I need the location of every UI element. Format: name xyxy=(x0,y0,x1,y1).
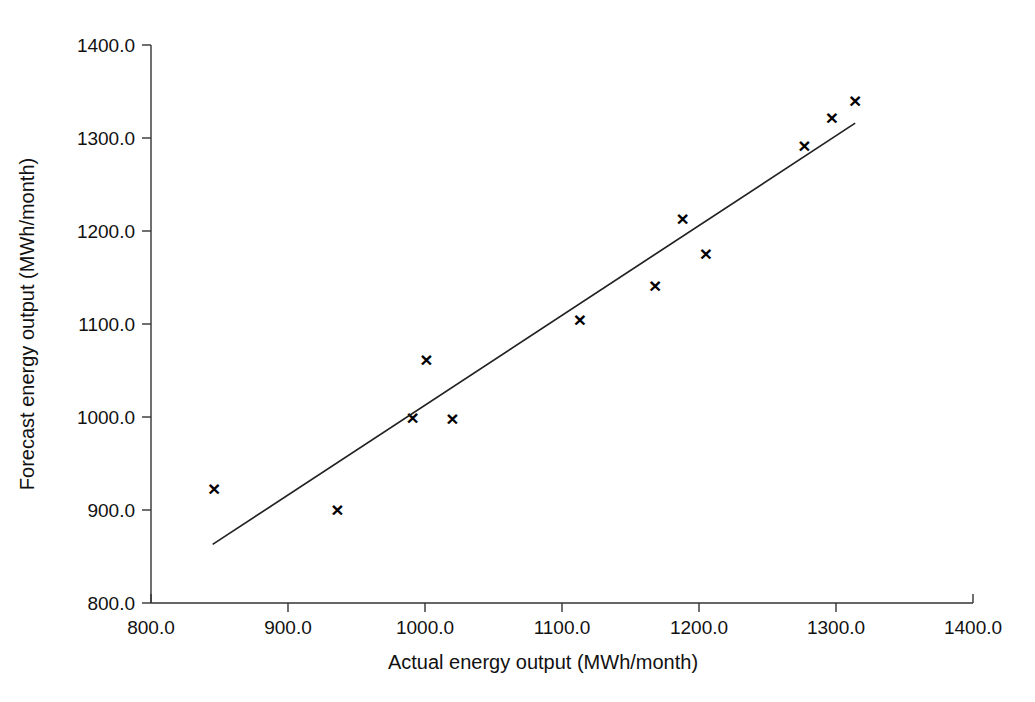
y-tick-label-900: 900.0 xyxy=(87,500,135,521)
data-point: × xyxy=(331,498,343,521)
data-point: × xyxy=(574,308,586,331)
data-point: × xyxy=(826,106,838,129)
data-point: × xyxy=(676,207,688,230)
data-point: × xyxy=(700,242,712,265)
y-tick-label-1200: 1200.0 xyxy=(77,221,135,242)
data-point: × xyxy=(420,348,432,371)
x-tick-label-800: 800.0 xyxy=(127,617,175,638)
x-tick-label-1400: 1400.0 xyxy=(944,617,1002,638)
x-axis: 800.0900.01000.01100.01200.01300.01400.0 xyxy=(127,594,1002,638)
trend-line xyxy=(213,123,856,544)
data-point: × xyxy=(649,274,661,297)
y-tick-label-1100: 1100.0 xyxy=(78,314,135,335)
y-tick-label-800: 800.0 xyxy=(87,593,135,614)
x-tick-label-900: 900.0 xyxy=(264,617,312,638)
data-point: × xyxy=(208,477,220,500)
scatter-chart: 800.0900.01000.01100.01200.01300.01400.0… xyxy=(0,0,1035,702)
y-tick-label-1300: 1300.0 xyxy=(77,128,135,149)
data-series: ×××××××××××× xyxy=(208,89,861,520)
x-tick-label-1300: 1300.0 xyxy=(807,617,865,638)
x-tick-label-1000: 1000.0 xyxy=(396,617,454,638)
x-axis-title: Actual energy output (MWh/month) xyxy=(388,651,698,673)
plot-area: 800.0900.01000.01100.01200.01300.01400.0… xyxy=(0,0,1035,702)
y-tick-label-1000: 1000.0 xyxy=(77,407,135,428)
x-tick-label-1200: 1200.0 xyxy=(670,617,728,638)
y-tick-label-1400: 1400.0 xyxy=(77,35,135,56)
y-axis: 800.0900.01000.01100.01200.01300.01400.0 xyxy=(77,35,151,614)
data-point: × xyxy=(849,89,861,112)
regression-line xyxy=(213,123,856,544)
y-axis-title: Forecast energy output (MWh/month) xyxy=(16,158,38,490)
x-tick-label-1100: 1100.0 xyxy=(534,617,591,638)
data-point: × xyxy=(446,407,458,430)
